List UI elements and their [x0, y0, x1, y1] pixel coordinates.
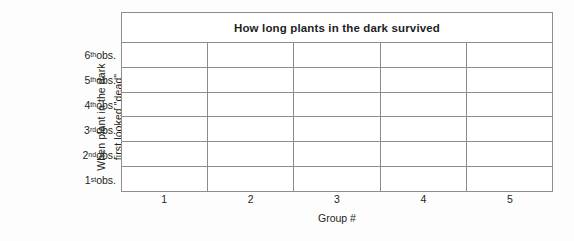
table-cell[interactable] — [122, 93, 208, 117]
x-axis-tick-labels: 12345 — [121, 193, 553, 209]
table-row — [122, 93, 552, 118]
x-axis-tick-label: 2 — [207, 193, 293, 209]
table-cell[interactable] — [381, 43, 467, 67]
table-cell[interactable] — [122, 68, 208, 92]
table-cell[interactable] — [294, 167, 380, 191]
table-cell[interactable] — [467, 117, 552, 141]
table-cell[interactable] — [381, 142, 467, 166]
table-row — [122, 117, 552, 142]
table-cell[interactable] — [208, 93, 294, 117]
table-cell[interactable] — [381, 68, 467, 92]
row-header-text: obs. — [96, 149, 116, 161]
x-axis-tick-label: 4 — [380, 193, 466, 209]
table-cell[interactable] — [208, 167, 294, 191]
table-row — [122, 43, 552, 68]
table-cell[interactable] — [208, 142, 294, 166]
table-cell[interactable] — [294, 117, 380, 141]
table-cell[interactable] — [381, 93, 467, 117]
table-cell[interactable] — [294, 142, 380, 166]
table-cell[interactable] — [208, 68, 294, 92]
x-axis-title: Group # — [121, 212, 553, 224]
table-row — [122, 142, 552, 167]
row-header-label: 4th obs. — [58, 93, 116, 118]
data-table: How long plants in the dark survived — [121, 12, 553, 192]
chart-title-row: How long plants in the dark survived — [122, 13, 552, 43]
row-header-label: 3rd obs. — [58, 117, 116, 142]
row-header-text: obs. — [96, 124, 116, 136]
row-header-list: 6th obs.5th obs.4th obs.3rd obs.2nd obs.… — [58, 43, 116, 192]
table-cell[interactable] — [294, 43, 380, 67]
table-cell[interactable] — [122, 43, 208, 67]
x-axis-tick-label: 3 — [294, 193, 380, 209]
table-cell[interactable] — [122, 167, 208, 191]
table-cell[interactable] — [208, 117, 294, 141]
table-body — [122, 43, 552, 191]
table-cell[interactable] — [381, 167, 467, 191]
table-cell[interactable] — [467, 43, 552, 67]
row-header-label: 2nd obs. — [58, 142, 116, 167]
chart-title: How long plants in the dark survived — [234, 22, 440, 34]
table-cell[interactable] — [208, 43, 294, 67]
table-row — [122, 68, 552, 93]
table-cell[interactable] — [294, 68, 380, 92]
x-axis-tick-label: 5 — [467, 193, 553, 209]
row-header-label: 5th obs. — [58, 68, 116, 93]
row-header-text: obs. — [96, 174, 116, 186]
y-axis-title: When plant in the dark first looked "dea… — [12, 42, 60, 192]
table-cell[interactable] — [467, 167, 552, 191]
row-header-ordinal: 1 — [85, 174, 91, 186]
table-cell[interactable] — [467, 142, 552, 166]
table-cell[interactable] — [122, 117, 208, 141]
table-cell[interactable] — [467, 68, 552, 92]
table-cell[interactable] — [122, 142, 208, 166]
table-cell[interactable] — [467, 93, 552, 117]
table-row — [122, 167, 552, 191]
x-axis-tick-label: 1 — [121, 193, 207, 209]
row-header-label: 1st obs. — [58, 167, 116, 192]
row-header-text: obs. — [96, 49, 116, 61]
row-header-label: 6th obs. — [58, 43, 116, 68]
row-header-text: obs. — [96, 99, 116, 111]
table-cell[interactable] — [381, 117, 467, 141]
row-header-text: obs. — [96, 74, 116, 86]
table-cell[interactable] — [294, 93, 380, 117]
